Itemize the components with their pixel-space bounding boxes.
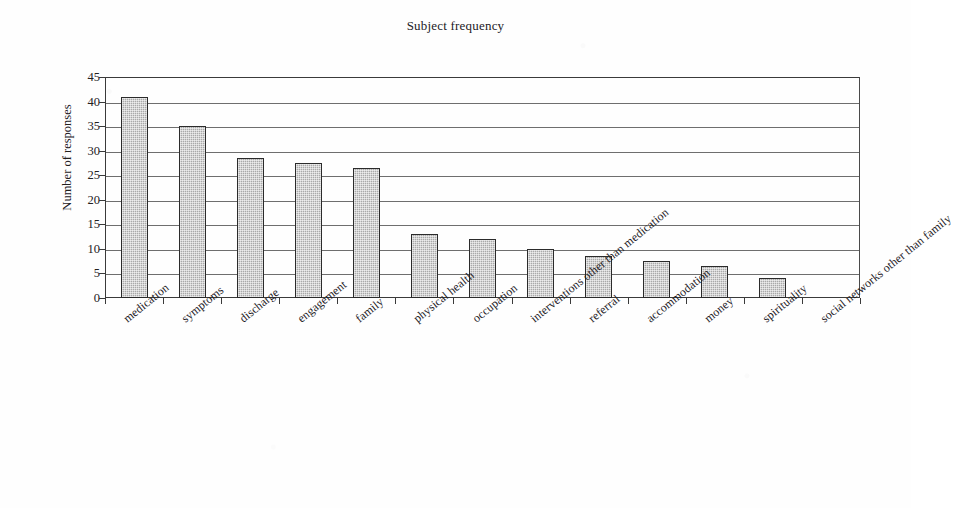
x-tick-mark (744, 298, 745, 304)
x-tick-mark (860, 298, 861, 304)
x-tick-mark (802, 298, 803, 304)
y-tick-label: 0 (74, 292, 100, 305)
x-tick-mark (105, 298, 106, 304)
gridline (106, 152, 859, 153)
plot-area (105, 77, 860, 298)
chart-title: Subject frequency (0, 18, 911, 34)
x-axis-tick-marks (105, 298, 860, 305)
y-tick-label: 10 (74, 243, 100, 256)
y-axis-tick-labels: 051015202530354045 (70, 77, 100, 298)
gridline (106, 201, 859, 202)
y-tick-label: 20 (74, 194, 100, 207)
y-tick-label: 30 (74, 144, 100, 157)
x-tick-mark (570, 298, 571, 304)
y-tick-label: 45 (74, 71, 100, 84)
y-tick-label: 5 (74, 267, 100, 280)
gridline (106, 250, 859, 251)
y-tick-label: 15 (74, 218, 100, 231)
gridline (106, 127, 859, 128)
y-tick-label: 25 (74, 169, 100, 182)
gridline (106, 176, 859, 177)
x-tick-mark (453, 298, 454, 304)
x-tick-mark (279, 298, 280, 304)
y-tick-label: 40 (74, 95, 100, 108)
gridline (106, 274, 859, 275)
x-tick-mark (221, 298, 222, 304)
x-tick-mark (628, 298, 629, 304)
gridline (106, 103, 859, 104)
x-tick-mark (337, 298, 338, 304)
gridline (106, 225, 859, 226)
x-tick-mark (512, 298, 513, 304)
x-tick-mark (395, 298, 396, 304)
y-tick-label: 35 (74, 120, 100, 133)
x-tick-mark (163, 298, 164, 304)
x-tick-mark (686, 298, 687, 304)
